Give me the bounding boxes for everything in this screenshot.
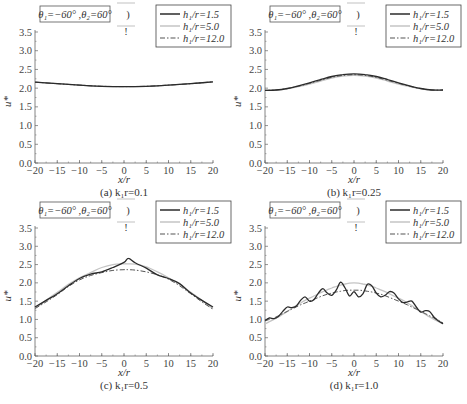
y-tick-label: 0.0 — [249, 351, 262, 362]
legend-label: h₁/r=12.0 — [183, 33, 225, 44]
y-tick-label: 2.5 — [19, 64, 32, 75]
legend-label: h₁/r=1.5 — [183, 9, 219, 20]
x-axis-label: x/r — [347, 366, 361, 378]
y-tick-label: 1.0 — [19, 314, 32, 325]
angle-annotation: θ₁=−60° ,θ₂=60° — [38, 205, 112, 216]
legend-label: h₁/r=12.0 — [413, 33, 455, 44]
y-tick-label: 2.0 — [19, 83, 32, 94]
x-tick-label: −15 — [49, 358, 65, 369]
y-tick-label: 1.0 — [19, 120, 32, 131]
series-line-solid-light — [265, 283, 443, 324]
x-tick-label: 5 — [374, 165, 379, 176]
panel-caption: (a) k₁r=0.1 — [100, 186, 148, 199]
angle-annotation: θ₁=−60° ,θ₂=60° — [268, 205, 342, 216]
angle-annotation: θ₁=−60° ,θ₂=60° — [38, 9, 112, 20]
x-tick-label: 10 — [393, 358, 404, 369]
panel-caption: (d) k₁r=1.0 — [330, 379, 379, 392]
x-tick-label: −10 — [301, 165, 317, 176]
x-tick-label: 15 — [186, 358, 197, 369]
y-tick-label: 0.0 — [19, 351, 32, 362]
x-tick-label: −15 — [279, 165, 295, 176]
legend-label: h₁/r=1.5 — [183, 205, 219, 216]
x-tick-label: −10 — [301, 358, 317, 369]
legend-label: h₁/r=1.5 — [413, 205, 449, 216]
y-tick-label: 2.5 — [249, 64, 262, 75]
inset-paren: ) — [356, 205, 360, 217]
panel-caption: (b) k₁r=0.25 — [327, 186, 382, 199]
x-tick-label: 5 — [144, 358, 149, 369]
x-tick-label: 5 — [374, 358, 379, 369]
series-line-solid — [35, 258, 213, 307]
y-tick-label: 1.5 — [249, 296, 262, 307]
legend-label: h₁/r=12.0 — [413, 229, 455, 240]
x-tick-label: 10 — [393, 165, 404, 176]
x-tick-label: −5 — [326, 358, 337, 369]
series-line-solid — [35, 82, 213, 87]
series-line-solid — [265, 74, 443, 91]
y-tick-label: 1.5 — [19, 101, 32, 112]
x-tick-label: 10 — [163, 358, 174, 369]
y-tick-label: 1.0 — [249, 120, 262, 131]
x-tick-label: 20 — [438, 358, 449, 369]
figure: −20−15−10−5051015200.00.51.01.52.02.53.0… — [0, 0, 467, 404]
x-tick-label: 20 — [438, 165, 449, 176]
y-axis-label: u* — [1, 290, 13, 302]
legend-label: h₁/r=12.0 — [183, 229, 225, 240]
legend-label: h₁/r=5.0 — [413, 217, 450, 228]
y-tick-label: 0.0 — [249, 158, 262, 169]
y-tick-label: 0.5 — [19, 332, 32, 343]
y-axis-label: u* — [231, 290, 243, 302]
x-tick-label: 15 — [186, 165, 197, 176]
y-tick-label: 0.5 — [249, 139, 262, 150]
inset-bar: ! — [124, 222, 128, 233]
y-tick-label: 3.0 — [249, 241, 262, 252]
legend-label: h₁/r=1.5 — [413, 9, 449, 20]
y-tick-label: 3.0 — [19, 241, 32, 252]
legend-label: h₁/r=5.0 — [183, 21, 220, 32]
inset-paren: ) — [126, 205, 130, 217]
y-tick-label: 2.0 — [249, 277, 262, 288]
inset-bar: ! — [354, 26, 358, 37]
x-tick-label: −10 — [71, 165, 87, 176]
y-tick-label: 2.5 — [19, 259, 32, 270]
x-tick-label: 15 — [416, 165, 427, 176]
y-tick-label: 2.0 — [249, 83, 262, 94]
inset-paren: ) — [126, 9, 130, 21]
x-tick-label: −5 — [96, 165, 107, 176]
x-tick-label: 15 — [416, 358, 427, 369]
y-tick-label: 1.0 — [249, 314, 262, 325]
x-tick-label: −10 — [71, 358, 87, 369]
panel-d: −20−15−10−5051015200.00.51.01.52.02.53.0… — [231, 199, 461, 392]
y-tick-label: 3.0 — [249, 45, 262, 56]
y-tick-label: 0.5 — [19, 139, 32, 150]
x-tick-label: 20 — [208, 358, 219, 369]
panel-b: −20−15−10−5051015200.00.51.01.52.02.53.0… — [231, 3, 461, 199]
legend-label: h₁/r=5.0 — [183, 217, 220, 228]
inset-bar: ! — [124, 26, 128, 37]
x-tick-label: −15 — [279, 358, 295, 369]
x-tick-label: −5 — [326, 165, 337, 176]
y-tick-label: 0.0 — [19, 158, 32, 169]
series-line-solid-light — [35, 264, 213, 309]
x-tick-label: 5 — [144, 165, 149, 176]
x-tick-label: −15 — [49, 165, 65, 176]
angle-annotation: θ₁=−60° ,θ₂=60° — [268, 9, 342, 20]
x-tick-label: −5 — [96, 358, 107, 369]
y-tick-label: 3.5 — [249, 27, 262, 38]
x-axis-label: x/r — [347, 173, 361, 185]
y-tick-label: 3.5 — [19, 223, 32, 234]
y-tick-label: 3.5 — [19, 27, 32, 38]
y-tick-label: 1.5 — [19, 296, 32, 307]
x-tick-label: 10 — [163, 165, 174, 176]
y-tick-label: 2.5 — [249, 259, 262, 270]
y-tick-label: 1.5 — [249, 101, 262, 112]
x-axis-label: x/r — [117, 173, 131, 185]
panel-caption: (c) k₁r=0.5 — [100, 379, 148, 392]
y-axis-label: u* — [231, 96, 243, 108]
series-line-solid — [265, 282, 443, 324]
x-tick-label: 20 — [208, 165, 219, 176]
y-tick-label: 3.5 — [249, 223, 262, 234]
y-axis-label: u* — [1, 96, 13, 108]
y-tick-label: 3.0 — [19, 45, 32, 56]
y-tick-label: 2.0 — [19, 277, 32, 288]
